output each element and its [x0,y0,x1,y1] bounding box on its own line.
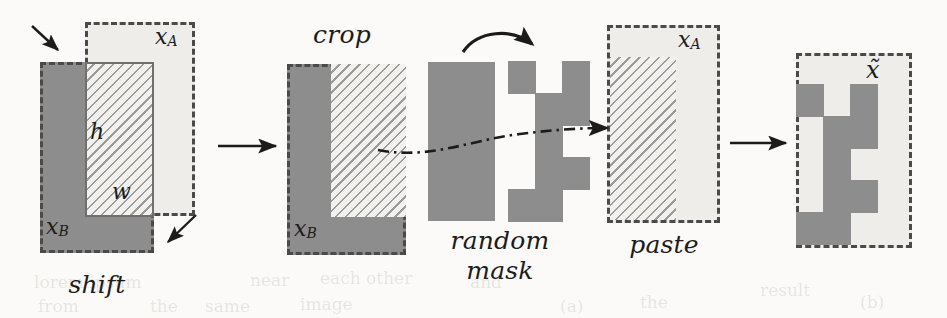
ghost-text-8: (a) [560,296,583,316]
mask-cell-r2-c1 [535,125,563,158]
ghost-text-3: from [38,296,79,316]
mask-cell-r4-c0 [508,189,536,222]
shift-overlap-edge-left [85,62,87,217]
ghost-text-5: same [205,296,250,316]
ghost-text-11: (b) [860,292,884,312]
ghost-text-1: near [250,270,289,290]
label-xa-shift: xA [155,25,178,49]
mask-cell-r1-c1 [535,93,563,126]
mask-cell-r3-c2 [562,157,590,190]
shift-overlap-edge-top [85,62,154,64]
mask-source-block [428,62,495,221]
result-cell-r2-c1 [823,148,851,181]
label-x-tilde: x̃ [866,58,880,83]
result-cell-r1-c1 [823,116,851,149]
mask-cell-r1-c2 [562,93,590,126]
result-cell-r3-c1 [823,180,851,213]
ghost-text-9: the [640,292,668,312]
shift-hint-arrow-bottom [168,215,196,242]
step-label-crop: crop [313,22,371,48]
label-h: h [90,120,104,143]
ghost-text-4: the [150,296,178,316]
ghost-text-2: each other [320,268,412,288]
result-cell-r4-c1 [823,212,851,245]
result-cell-r0-c2 [850,84,878,117]
label-xb-shift: xB [46,215,69,239]
crop-overlap-hatch [331,64,406,217]
paste-hatch-region [610,57,676,220]
ghost-text-10: result [760,280,810,300]
step-label-shift: shift [68,272,125,298]
label-xb-crop: xB [294,217,317,241]
arrow-mask-curved [463,34,532,52]
label-xa-paste: xA [678,28,701,52]
result-cell-r3-c2 [850,180,878,213]
ghost-text-6: image [300,294,353,314]
shift-hint-arrow-top [32,26,58,50]
result-cell-r0-c0 [796,84,824,117]
augmentation-pipeline-figure: lorem ipsumneareach otherfromthesameimag… [0,0,947,318]
mask-cell-r3-c1 [535,157,563,190]
mask-cell-r4-c1 [535,189,563,222]
result-cell-r4-c0 [796,212,824,245]
result-cell-r1-c2 [850,116,878,149]
step-label-paste: paste [629,232,699,258]
step-label-mask: mask [466,258,533,284]
step-label-random: random [451,228,550,254]
mask-cell-r0-c2 [562,61,590,94]
mask-cell-r0-c0 [508,61,536,94]
label-w: w [112,180,131,203]
